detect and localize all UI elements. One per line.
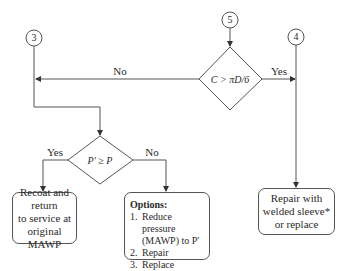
connector-5-label: 5: [222, 12, 238, 28]
options-item-1-cont: (MAWP) to P′: [130, 235, 204, 247]
sleeve-line-1: Repair with: [271, 192, 323, 205]
outcome-options-box: Options: 1. Reduce pressure (MAWP) to P′…: [124, 192, 210, 260]
connector-3-label: 3: [26, 30, 42, 46]
sleeve-line-2: welded sleeve*: [263, 205, 331, 218]
outcome-sleeve-box: Repair with welded sleeve* or replace: [258, 188, 335, 235]
sleeve-line-3: or replace: [275, 218, 319, 231]
circumference-yes-label: Yes: [271, 65, 287, 77]
pressure-yes-label: Yes: [47, 146, 63, 158]
options-item-3: 3. Replace: [130, 259, 204, 271]
options-item-1: 1. Reduce pressure: [130, 211, 204, 235]
options-item-2: 2. Repair: [130, 247, 204, 259]
recoat-line-3: original MAWP: [13, 225, 76, 251]
circumference-no-label: No: [113, 65, 126, 77]
recoat-line-2: to service at: [18, 212, 71, 225]
decision-circumference-label: C > πD/6: [211, 74, 249, 86]
options-title: Options:: [130, 199, 204, 211]
pressure-no-label: No: [145, 146, 158, 158]
recoat-line-1: Recoat and return: [13, 186, 76, 212]
connector-4-label: 4: [288, 29, 304, 45]
decision-pressure-label: P′ ≥ P: [88, 155, 113, 167]
outcome-recoat-box: Recoat and return to service at original…: [12, 192, 77, 244]
